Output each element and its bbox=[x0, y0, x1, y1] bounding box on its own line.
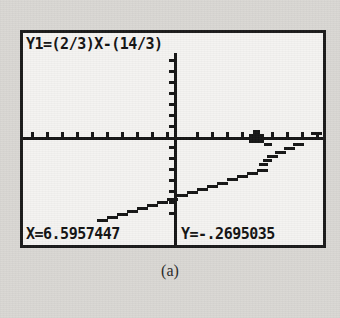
x-axis bbox=[23, 137, 323, 140]
graph-plane bbox=[23, 33, 323, 245]
trace-x-value: X=6.5957447 bbox=[26, 224, 120, 244]
plotted-line-y1 bbox=[97, 132, 322, 222]
calculator-screen-inner: Y1=(2/3)X-(14/3) bbox=[23, 33, 323, 245]
calculator-screen: Y1=(2/3)X-(14/3) bbox=[20, 30, 326, 248]
y-axis bbox=[174, 53, 177, 245]
trace-y-value: Y=-.2695035 bbox=[181, 224, 275, 244]
figure-caption: (a) bbox=[0, 262, 340, 280]
equation-label: Y1=(2/3)X-(14/3) bbox=[26, 35, 163, 53]
trace-coordinate-readout: X=6.5957447 Y=-.2695035 bbox=[23, 221, 323, 245]
graph-svg bbox=[23, 33, 323, 245]
